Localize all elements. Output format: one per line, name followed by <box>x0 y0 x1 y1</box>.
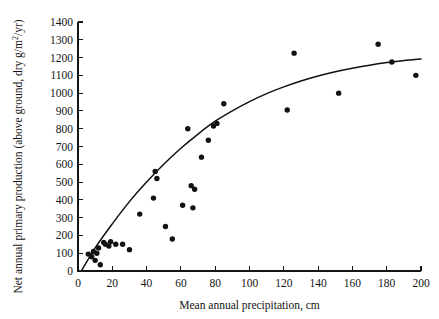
y-axis-title: Net annual primary production (above gro… <box>11 19 25 293</box>
data-point <box>170 236 175 241</box>
y-axis-tick-label: 900 <box>56 105 74 117</box>
data-point <box>151 195 156 200</box>
data-point <box>214 121 219 126</box>
data-point <box>154 176 159 181</box>
data-point <box>108 239 113 244</box>
y-axis-tick-label: 1300 <box>50 34 73 46</box>
fit-curve <box>81 59 421 271</box>
data-point <box>221 101 226 106</box>
y-axis-title-main: Net annual primary production (above gro… <box>12 40 25 294</box>
y-axis-tick-label: 800 <box>56 123 74 135</box>
y-axis-tick-label: 1000 <box>50 87 73 99</box>
figure-container: 0100200300400500600700800900100011001200… <box>0 0 439 319</box>
y-axis-tick-label: 400 <box>56 194 74 206</box>
data-point <box>96 245 101 250</box>
data-point <box>192 186 197 191</box>
x-axis-tick-label: 20 <box>107 277 119 289</box>
y-axis-tick-label: 1400 <box>50 16 73 28</box>
y-axis-tick-label: 500 <box>56 176 74 188</box>
data-point <box>336 90 341 95</box>
data-point <box>285 107 290 112</box>
x-axis-tick-label: 0 <box>75 277 81 289</box>
y-axis-title-tail: /yr) <box>12 19 25 36</box>
data-point <box>92 258 97 263</box>
axes-group: 0100200300400500600700800900100011001200… <box>50 16 430 289</box>
x-axis-tick-label: 120 <box>275 277 293 289</box>
x-axis-tick-label: 140 <box>309 277 327 289</box>
y-axis-tick-label: 100 <box>56 247 74 259</box>
y-axis-tick-label: 700 <box>56 141 74 153</box>
y-axis-tick-label: 1100 <box>50 69 73 81</box>
data-points-group <box>86 42 419 268</box>
data-point <box>206 138 211 143</box>
y-axis-tick-label: 600 <box>56 158 74 170</box>
data-point <box>375 42 380 47</box>
data-point <box>389 59 394 64</box>
data-point <box>291 50 296 55</box>
data-point <box>94 251 99 256</box>
x-axis-tick-label: 100 <box>241 277 259 289</box>
x-axis-tick-label: 40 <box>141 277 153 289</box>
data-point <box>127 247 132 252</box>
x-axis-tick-label: 200 <box>412 277 430 289</box>
data-point <box>163 224 168 229</box>
y-axis-tick-label: 1200 <box>50 52 73 64</box>
x-axis-tick-label: 160 <box>344 277 362 289</box>
x-axis-title: Mean annual precipitation, cm <box>179 299 320 312</box>
data-point <box>180 202 185 207</box>
x-axis-tick-label: 60 <box>175 277 187 289</box>
data-point <box>137 211 142 216</box>
scatter-plot: 0100200300400500600700800900100011001200… <box>0 0 439 319</box>
y-axis-tick-label: 300 <box>56 212 74 224</box>
fit-curve-group <box>81 59 421 271</box>
y-axis-tick-label: 0 <box>67 265 73 277</box>
data-point <box>190 205 195 210</box>
axis-spines <box>78 22 421 271</box>
data-point <box>199 154 204 159</box>
data-point <box>152 169 157 174</box>
y-axis-tick-label: 200 <box>56 229 74 241</box>
data-point <box>185 126 190 131</box>
data-point <box>113 242 118 247</box>
data-point <box>120 242 125 247</box>
data-point <box>413 73 418 78</box>
x-axis-tick-label: 180 <box>378 277 396 289</box>
data-point <box>98 262 103 267</box>
x-axis-tick-label: 80 <box>209 277 221 289</box>
